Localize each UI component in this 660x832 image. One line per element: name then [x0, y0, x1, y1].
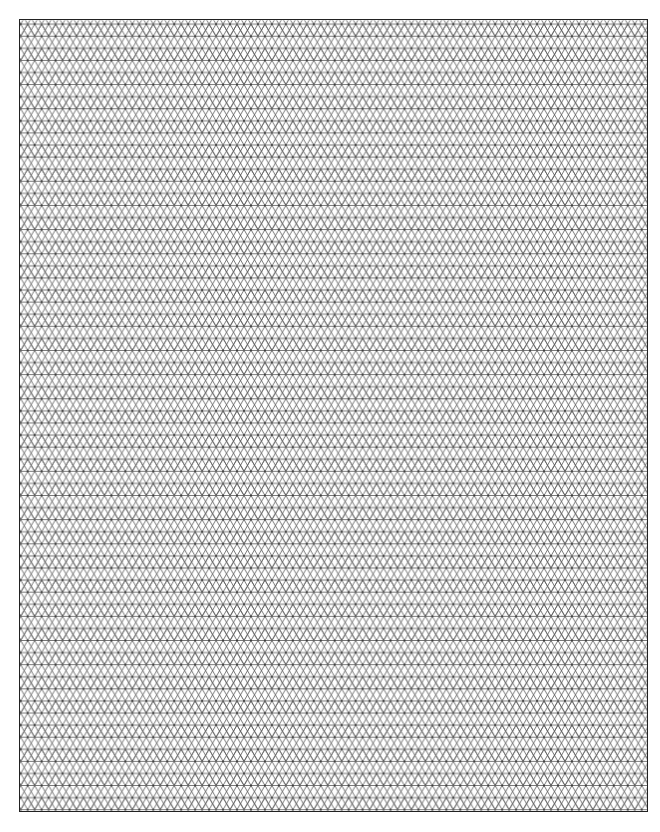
page-title: Isometric Grid Paper — [0, 0, 1, 1]
page: Isometric Grid Paper — [0, 0, 660, 832]
isometric-grid-frame — [19, 19, 648, 812]
isometric-grid — [20, 20, 647, 811]
grid-fill — [20, 20, 647, 810]
